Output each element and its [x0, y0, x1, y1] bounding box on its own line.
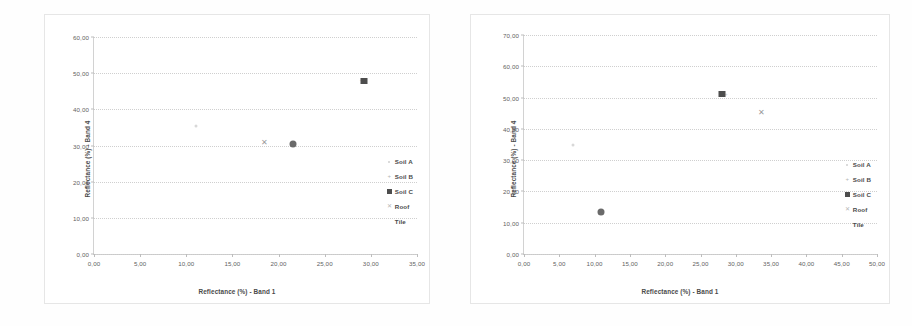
x-tick-label: 50,00 [869, 260, 885, 267]
plot-area-right: 0,0010,0020,0030,0040,0050,0060,0070,000… [523, 35, 877, 255]
data-point-roof: ✕ [758, 108, 765, 115]
legend-label: Soil C [853, 191, 871, 198]
x-tick-label: 40,00 [798, 260, 814, 267]
roof-marker-icon: ✕ [386, 203, 393, 210]
x-tick-label: 35,00 [409, 260, 425, 267]
x-tick-mark [877, 254, 878, 257]
y-tick-mark [91, 181, 94, 182]
x-tick-mark [595, 254, 596, 257]
x-tick-mark [186, 254, 187, 257]
chart-left: 0,0010,0020,0030,0040,0050,0060,000,005,… [44, 14, 430, 304]
x-tick-mark [559, 254, 560, 257]
x-tick-mark [325, 254, 326, 257]
y-tick-label: 0,00 [77, 251, 89, 258]
x-tick-mark [630, 254, 631, 257]
y-axis-title-right: Reflectance (%) - Band 4 [510, 121, 517, 198]
y-tick-mark [521, 191, 524, 192]
x-tick-label: 45,00 [834, 260, 850, 267]
gridline [94, 182, 417, 183]
soil-a-marker-icon [386, 158, 393, 165]
y-tick-mark [521, 160, 524, 161]
y-tick-mark [91, 145, 94, 146]
data-point-soil-a [572, 143, 575, 146]
x-tick-label: 15,00 [224, 260, 240, 267]
y-tick-label: 10,00 [503, 219, 519, 226]
roof-marker-icon: ✕ [844, 206, 851, 213]
y-tick-mark [521, 66, 524, 67]
soil-a-marker-icon [844, 161, 851, 168]
tile-marker-icon [386, 218, 393, 225]
gridline [524, 160, 877, 161]
legend-label: Tile [853, 221, 864, 228]
y-tick-mark [521, 35, 524, 36]
y-tick-label: 10,00 [73, 214, 89, 221]
legend-left: Soil A+Soil BSoil C✕RoofTile [386, 158, 413, 225]
legend-item-soil-a[interactable]: Soil A [844, 161, 871, 168]
gridline [524, 66, 877, 67]
x-tick-mark [736, 254, 737, 257]
legend-item-tile[interactable]: Tile [844, 221, 871, 228]
x-tick-mark [417, 254, 418, 257]
x-tick-mark [371, 254, 372, 257]
gridline [94, 254, 417, 255]
tile-marker-icon [844, 221, 851, 228]
legend-item-soil-b[interactable]: +Soil B [844, 176, 871, 183]
y-tick-mark [521, 222, 524, 223]
legend-item-roof[interactable]: ✕Roof [386, 203, 413, 210]
gridline [524, 35, 877, 36]
x-tick-mark [232, 254, 233, 257]
legend-label: Roof [395, 203, 410, 210]
data-point-soil-c [718, 91, 725, 97]
legend-item-soil-c[interactable]: Soil C [844, 191, 871, 198]
y-tick-label: 40,00 [73, 106, 89, 113]
data-point-roof: ✕ [261, 138, 268, 145]
data-point-tile [597, 208, 604, 215]
x-tick-label: 30,00 [728, 260, 744, 267]
y-tick-mark [91, 73, 94, 74]
gridline [524, 191, 877, 192]
x-tick-mark [806, 254, 807, 257]
y-tick-label: 50,00 [73, 70, 89, 77]
soil-c-marker-icon [386, 188, 393, 195]
x-tick-mark [140, 254, 141, 257]
soil-b-marker-icon: + [386, 173, 393, 180]
x-tick-label: 10,00 [178, 260, 194, 267]
x-tick-mark [842, 254, 843, 257]
legend-item-soil-c[interactable]: Soil C [386, 188, 413, 195]
y-tick-mark [521, 97, 524, 98]
x-tick-label: 20,00 [657, 260, 673, 267]
gridline [524, 129, 877, 130]
gridline [94, 146, 417, 147]
x-tick-label: 0,00 [88, 260, 100, 267]
gridline [524, 223, 877, 224]
x-tick-label: 25,00 [693, 260, 709, 267]
x-tick-label: 20,00 [271, 260, 287, 267]
y-tick-label: 60,00 [503, 63, 519, 70]
legend-label: Soil C [395, 188, 413, 195]
legend-label: Soil A [853, 161, 871, 168]
y-tick-label: 70,00 [503, 32, 519, 39]
legend-item-roof[interactable]: ✕Roof [844, 206, 871, 213]
chart-right: 0,0010,0020,0030,0040,0050,0060,0070,000… [470, 14, 890, 304]
gridline [94, 218, 417, 219]
legend-item-soil-b[interactable]: +Soil B [386, 173, 413, 180]
soil-c-marker-icon [844, 191, 851, 198]
legend-label: Tile [395, 218, 406, 225]
x-tick-mark [524, 254, 525, 257]
y-tick-label: 60,00 [73, 34, 89, 41]
data-point-soil-c [361, 78, 368, 84]
y-tick-label: 0,00 [507, 251, 519, 258]
y-tick-mark [91, 217, 94, 218]
data-point-soil-a [194, 124, 197, 127]
x-tick-label: 5,00 [553, 260, 565, 267]
x-tick-label: 35,00 [763, 260, 779, 267]
y-tick-mark [91, 37, 94, 38]
x-tick-mark [94, 254, 95, 257]
gridline [524, 98, 877, 99]
legend-item-tile[interactable]: Tile [386, 218, 413, 225]
legend-item-soil-a[interactable]: Soil A [386, 158, 413, 165]
x-tick-mark [279, 254, 280, 257]
legend-right: Soil A+Soil BSoil C✕RoofTile [844, 161, 871, 228]
x-axis-title-left: Reflectance (%) - Band 1 [45, 288, 429, 295]
gridline [94, 109, 417, 110]
